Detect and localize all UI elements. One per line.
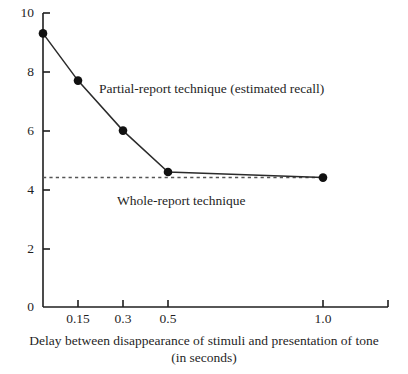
y-tick-label-8: 8 (8, 65, 34, 79)
x-axis-caption: Delay between disappearance of stimuli a… (0, 332, 408, 367)
y-tick-label-2: 2 (8, 242, 34, 256)
line-chart-figure: 10 8 6 4 2 0 0.15 0.3 0.5 1.0 Partial-re… (0, 0, 408, 374)
x-tick-label-05: 0.5 (145, 312, 191, 326)
data-point-marker (164, 168, 173, 177)
y-tick-label-0: 0 (8, 300, 34, 314)
data-point-marker (39, 29, 48, 38)
y-tick-label-4: 4 (8, 183, 34, 197)
x-tick-label-10: 1.0 (300, 312, 346, 326)
x-axis-caption-line-2: (in seconds) (0, 349, 408, 366)
data-point-marker (119, 126, 128, 135)
partial-report-line (43, 33, 323, 177)
x-tick-label-03: 0.3 (100, 312, 146, 326)
data-point-marker (74, 76, 83, 85)
x-tick-label-015: 0.15 (55, 312, 101, 326)
y-tick-label-10: 10 (8, 6, 34, 20)
partial-report-series-label: Partial-report technique (estimated reca… (99, 82, 324, 96)
x-axis-caption-line-1: Delay between disappearance of stimuli a… (0, 332, 408, 349)
y-tick-label-6: 6 (8, 124, 34, 138)
data-point-marker (319, 173, 328, 182)
whole-report-series-label: Whole-report technique (117, 194, 246, 208)
